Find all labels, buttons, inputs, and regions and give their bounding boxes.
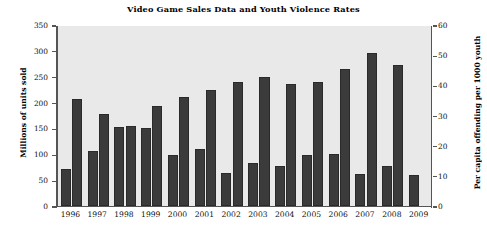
tick-label-text: 0: [14, 203, 48, 211]
bar-group-2002: [219, 26, 246, 206]
bar-youth-2006: [340, 69, 350, 206]
bar-youth-2005: [313, 82, 323, 206]
bar-group-2003: [246, 26, 273, 206]
tick-label-text: 60: [438, 22, 472, 30]
y-axis-right-tick: [433, 86, 437, 87]
y-axis-left-tick: [52, 155, 56, 156]
x-axis-label-2002: 2002: [218, 210, 245, 219]
bar-sales-2008: [382, 166, 392, 206]
bar-youth-2008: [393, 65, 403, 206]
y-axis-left-tick: [52, 51, 56, 52]
bar-youth-2004: [286, 84, 296, 206]
x-axis-label-2004: 2004: [271, 210, 298, 219]
tick-label-text: 0: [438, 203, 472, 211]
bar-youth-2007: [367, 53, 377, 206]
x-axis-label-2003: 2003: [245, 210, 272, 219]
y-axis-right-title: Per capita offending per 1000 youth: [473, 28, 482, 198]
tick-label-text: 10: [438, 173, 472, 181]
y-axis-left-tick: [52, 206, 56, 207]
x-axis-label-2000: 2000: [164, 210, 191, 219]
bar-sales-2009: [409, 175, 419, 206]
bar-sales-2002: [221, 173, 231, 206]
plot-area: [57, 26, 432, 207]
y-axis-right-tick-label: 20: [438, 143, 472, 151]
bar-group-1998: [112, 26, 139, 206]
bar-sales-2001: [195, 149, 205, 206]
y-axis-right-tick-label: 10: [438, 173, 472, 181]
x-axis-label-1997: 1997: [84, 210, 111, 219]
y-axis-left-tick: [52, 25, 56, 26]
y-axis-right-tick-label: 40: [438, 82, 472, 90]
bar-group-1996: [58, 26, 85, 206]
x-axis-label-1999: 1999: [137, 210, 164, 219]
bar-group-2000: [165, 26, 192, 206]
x-axis-label-1998: 1998: [111, 210, 138, 219]
y-axis-right-tick: [433, 176, 437, 177]
x-axis-label-2001: 2001: [191, 210, 218, 219]
bar-group-2006: [326, 26, 353, 206]
bar-group-1997: [85, 26, 112, 206]
bar-sales-1998: [114, 127, 124, 206]
bar-youth-1998: [126, 126, 136, 206]
bar-group-2009: [406, 26, 433, 206]
bar-youth-1996: [72, 99, 82, 206]
x-axis-label-2008: 2008: [378, 210, 405, 219]
bar-group-2008: [379, 26, 406, 206]
bar-sales-1997: [88, 151, 98, 206]
bars-layer: [58, 26, 431, 206]
bar-sales-2006: [329, 154, 339, 206]
bar-youth-1997: [99, 114, 109, 206]
bar-sales-1999: [141, 128, 151, 206]
bar-youth-2001: [206, 90, 216, 206]
y-axis-left-tick: [52, 181, 56, 182]
y-axis-right-tick: [433, 116, 437, 117]
x-axis-label-2007: 2007: [352, 210, 379, 219]
tick-label-text: 350: [14, 22, 48, 30]
tick-label-text: 40: [438, 82, 472, 90]
y-axis-left-tick: [52, 103, 56, 104]
tick-label-text: 30: [438, 113, 472, 121]
y-axis-right-tick: [433, 25, 437, 26]
bar-group-2004: [272, 26, 299, 206]
tick-label-text: 20: [438, 143, 472, 151]
bar-youth-2003: [259, 77, 269, 206]
y-axis-right-tick-label: 30: [438, 113, 472, 121]
y-axis-left-tick-label: 0: [14, 203, 48, 211]
bar-youth-2000: [179, 97, 189, 206]
y-axis-left-tick: [52, 77, 56, 78]
bar-sales-2005: [302, 155, 312, 206]
y-axis-left-title: Millions of units sold: [19, 43, 28, 183]
bar-group-2001: [192, 26, 219, 206]
y-axis-right-tick-label: 50: [438, 52, 472, 60]
chart-figure: Video Game Sales Data and Youth Violence…: [0, 0, 487, 237]
y-axis-right-tick: [433, 56, 437, 57]
y-axis-right-tick: [433, 206, 437, 207]
y-axis-right-tick: [433, 146, 437, 147]
bar-group-1999: [138, 26, 165, 206]
bar-sales-2004: [275, 166, 285, 206]
bar-youth-2002: [233, 82, 243, 206]
bar-group-2007: [353, 26, 380, 206]
bar-group-2005: [299, 26, 326, 206]
x-axis-labels: 1996199719981999200020012002200320042005…: [57, 210, 432, 226]
bar-sales-2003: [248, 163, 258, 206]
x-axis-label-2006: 2006: [325, 210, 352, 219]
y-axis-left-tick-label: 350: [14, 22, 48, 30]
x-axis-label-1996: 1996: [57, 210, 84, 219]
y-axis-left-tick: [52, 129, 56, 130]
y-axis-right-tick-label: 60: [438, 22, 472, 30]
tick-label-text: 50: [438, 52, 472, 60]
chart-title: Video Game Sales Data and Youth Violence…: [0, 4, 487, 14]
x-axis-label-2005: 2005: [298, 210, 325, 219]
y-axis-left-line: [56, 26, 57, 208]
bar-youth-1999: [152, 106, 162, 206]
y-axis-right-tick-label: 0: [438, 203, 472, 211]
bar-sales-1996: [61, 169, 71, 206]
bar-sales-2000: [168, 155, 178, 206]
x-axis-label-2009: 2009: [405, 210, 432, 219]
bar-sales-2007: [355, 174, 365, 206]
